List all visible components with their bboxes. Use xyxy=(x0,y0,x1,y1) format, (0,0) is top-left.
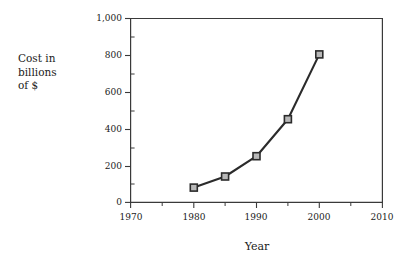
x-axis-title: Year xyxy=(130,240,384,253)
y-tick-label: 600 xyxy=(62,88,122,97)
x-tick-label: 2010 xyxy=(362,213,402,222)
data-point xyxy=(190,184,197,191)
plot-svg xyxy=(130,18,383,203)
plot-area: 1,000 800 600 400 200 0 1970 1980 1990 2… xyxy=(130,18,383,203)
x-major-ticks xyxy=(131,202,383,208)
data-markers xyxy=(190,51,322,191)
x-tick-label: 2000 xyxy=(299,213,339,222)
data-point xyxy=(284,116,291,123)
y-tick-label: 1,000 xyxy=(62,14,122,23)
x-tick-label: 1970 xyxy=(111,213,151,222)
x-tick-label: 1980 xyxy=(174,213,214,222)
chart-screenshot: Cost in billions of $ xyxy=(0,0,406,270)
data-point xyxy=(253,153,260,160)
y-major-ticks xyxy=(125,19,131,203)
x-tick-label: 1990 xyxy=(236,213,276,222)
data-line xyxy=(194,54,319,187)
y-tick-label: 200 xyxy=(62,162,122,171)
y-minor-ticks xyxy=(131,37,135,184)
data-point xyxy=(316,51,323,58)
y-tick-label: 400 xyxy=(62,125,122,134)
y-tick-label: 800 xyxy=(62,51,122,60)
y-axis-title-line-2: billions xyxy=(18,66,98,80)
data-point xyxy=(222,173,229,180)
y-tick-label: 0 xyxy=(62,198,122,207)
axis-frame xyxy=(130,18,383,203)
